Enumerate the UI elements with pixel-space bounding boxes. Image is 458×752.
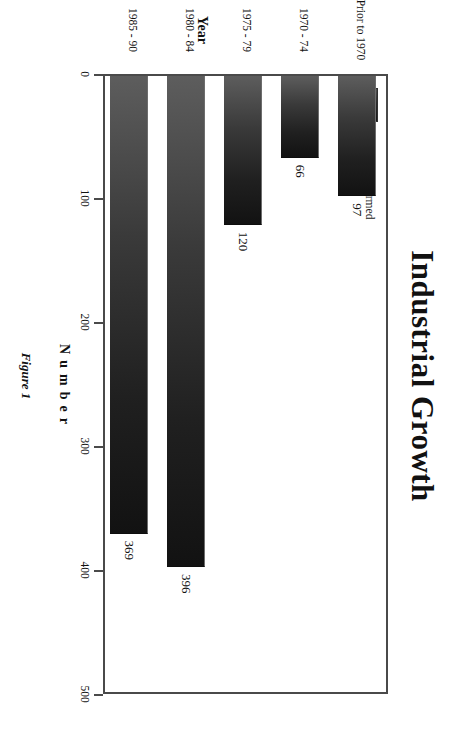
value-axis-tick-label: 200: [79, 313, 91, 330]
value-axis-tick: [94, 322, 103, 324]
category-axis-label: 1970 - 74: [299, 8, 311, 52]
category-axis-label: 1985 - 90: [128, 8, 140, 52]
value-axis-tick: [94, 198, 103, 200]
value-axis-title-letter: N: [57, 341, 72, 357]
value-axis-tick-label: 100: [79, 189, 91, 206]
category-axis-title: Year: [194, 16, 210, 44]
value-axis-tick: [94, 446, 103, 448]
value-axis-title-letter: u: [57, 357, 72, 371]
value-axis-title-letter: r: [57, 415, 72, 427]
bar-1975-79[interactable]: [225, 76, 263, 225]
bar-row: 97: [339, 76, 377, 696]
plot-frame: Companies Formed 9766120396369: [103, 74, 388, 694]
value-axis-tick: [94, 74, 103, 76]
value-axis-title: Number: [56, 74, 72, 694]
value-axis-tick: [94, 694, 103, 696]
bar-value-label: 66: [293, 165, 309, 178]
figure-caption: Figure 1: [18, 0, 34, 752]
bar-prior-to-1970[interactable]: [339, 76, 377, 196]
bar-1980-84[interactable]: [168, 76, 206, 567]
category-axis-label: Prior to 1970: [356, 0, 368, 60]
page-title: Industrial Growth: [404, 0, 440, 752]
value-axis-tick-label: 0: [79, 71, 91, 77]
bar-row: 369: [111, 76, 149, 696]
bar-row: 120: [225, 76, 263, 696]
figure-page: Industrial Growth Companies Formed 97661…: [0, 0, 458, 752]
plot-area: Companies Formed 9766120396369: [105, 76, 386, 692]
value-axis-tick-label: 400: [79, 561, 91, 578]
value-axis-title-letter: e: [57, 402, 72, 414]
value-axis-tick: [94, 570, 103, 572]
bar-value-label: 369: [122, 541, 138, 561]
value-axis: 0100200300400500: [102, 74, 103, 694]
value-axis-tick-label: 300: [79, 437, 91, 454]
value-axis-title-letter: m: [57, 371, 72, 389]
bar-value-label: 120: [236, 232, 252, 252]
bar-row: 396: [168, 76, 206, 696]
category-axis-label: 1975 - 79: [242, 8, 254, 52]
bar-value-label: 97: [350, 203, 366, 216]
value-axis-title-letter: b: [57, 389, 72, 403]
bar-1985-90[interactable]: [111, 76, 149, 534]
bar-row: 66: [282, 76, 320, 696]
bar-1970-74[interactable]: [282, 76, 320, 158]
bar-value-label: 396: [179, 574, 195, 594]
value-axis-tick-label: 500: [79, 685, 91, 702]
